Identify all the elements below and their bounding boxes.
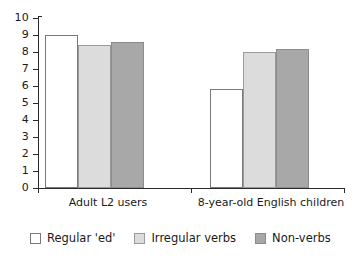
y-axis-tick: [33, 188, 38, 189]
legend-label: Regular 'ed': [47, 232, 115, 245]
y-axis-tick-label: 4: [0, 114, 29, 125]
y-axis-tick-label: 3: [0, 131, 29, 142]
y-axis-tick-label: 6: [0, 80, 29, 91]
bar: [210, 89, 243, 188]
bar: [243, 52, 276, 188]
y-axis-tick-label: 0: [0, 182, 29, 193]
x-axis-right-cap: [344, 188, 345, 193]
x-axis-middle-cap: [191, 188, 192, 193]
x-axis-group-label: Adult L2 users: [28, 196, 188, 209]
chart-legend: Regular 'ed'Irregular verbsNon-verbs: [30, 232, 350, 245]
legend-swatch-icon: [255, 233, 266, 244]
bar: [45, 35, 78, 188]
bar: [78, 45, 111, 188]
legend-item[interactable]: Non-verbs: [255, 232, 331, 245]
legend-swatch-icon: [30, 233, 41, 244]
legend-label: Non-verbs: [272, 232, 331, 245]
legend-swatch-icon: [134, 233, 145, 244]
bar: [111, 42, 144, 188]
x-axis-group-label: 8-year-old English children: [186, 196, 356, 209]
legend-item[interactable]: Regular 'ed': [30, 232, 115, 245]
y-axis-tick-label: 2: [0, 148, 29, 159]
y-axis-tick-label: 8: [0, 46, 29, 57]
bar-chart: 109876543210 Adult L2 users 8-year-old E…: [0, 0, 360, 261]
y-axis-tick-label: 1: [0, 165, 29, 176]
plot-area: [38, 18, 345, 188]
y-axis-tick-label: 9: [0, 29, 29, 40]
bar: [276, 49, 309, 188]
legend-label: Irregular verbs: [151, 232, 236, 245]
y-axis-tick-label: 10: [0, 12, 29, 23]
y-axis-tick-label: 7: [0, 63, 29, 74]
x-axis-left-cap: [38, 188, 39, 193]
y-axis-tick-label: 5: [0, 97, 29, 108]
legend-item[interactable]: Irregular verbs: [134, 232, 236, 245]
y-axis-top-cap: [38, 16, 42, 17]
